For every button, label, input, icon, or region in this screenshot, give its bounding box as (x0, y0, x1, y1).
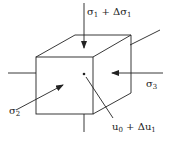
center-point (83, 73, 86, 76)
axis-right (130, 30, 160, 45)
sigma1-label: σ1 + Δσ1 (87, 7, 132, 19)
sigma2-arrow (16, 85, 63, 110)
cube-front-face (36, 57, 93, 114)
u-leader-line (86, 77, 113, 118)
sigma2-label: σ2 (9, 106, 20, 118)
cube-right-face (93, 35, 131, 114)
sigma3-label: σ3 (146, 79, 157, 91)
u-label: u0 + Δu1 (112, 122, 156, 134)
cube-top-face (36, 35, 131, 57)
